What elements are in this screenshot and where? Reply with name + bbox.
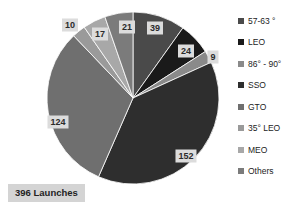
pie-slice-value-label: 24: [178, 45, 194, 58]
chart-screenshot: 39249152124101721 396 Launches 57-63 °LE…: [0, 0, 305, 214]
chart-legend: 57-63 °LEO86° - 90°SSOGTO35° LEOMEOOther…: [238, 10, 305, 182]
legend-item[interactable]: Others: [238, 161, 305, 183]
legend-item[interactable]: 57-63 °: [238, 10, 305, 32]
legend-item-label: GTO: [248, 102, 266, 112]
pie-chart: [0, 0, 232, 200]
pie-slice-value-label: 124: [47, 116, 68, 129]
legend-item[interactable]: GTO: [238, 96, 305, 118]
legend-item-label: SSO: [248, 80, 266, 90]
legend-swatch-icon: [238, 168, 244, 174]
legend-item-label: MEO: [248, 145, 267, 155]
legend-swatch-icon: [238, 147, 244, 153]
pie-slice-value-label: 17: [92, 28, 108, 41]
legend-item[interactable]: SSO: [238, 75, 305, 97]
legend-item-label: LEO: [248, 37, 265, 47]
legend-item-label: 86° - 90°: [248, 59, 281, 69]
legend-swatch-icon: [238, 82, 244, 88]
pie-slice-value-label: 152: [175, 150, 196, 163]
total-launches-callout: 396 Launches: [8, 184, 85, 202]
legend-item-label: 35° LEO: [248, 123, 280, 133]
legend-item[interactable]: 86° - 90°: [238, 53, 305, 75]
pie-slice-value-label: 9: [207, 51, 218, 64]
legend-item[interactable]: 35° LEO: [238, 118, 305, 140]
legend-item[interactable]: LEO: [238, 32, 305, 54]
pie-slice-value-label: 10: [62, 19, 78, 32]
legend-item-label: Others: [248, 166, 274, 176]
legend-swatch-icon: [238, 125, 244, 131]
legend-item-label: 57-63 °: [248, 16, 276, 26]
pie-slice-value-label: 21: [119, 21, 135, 34]
legend-swatch-icon: [238, 18, 244, 24]
pie-slice-value-label: 39: [147, 22, 163, 35]
legend-swatch-icon: [238, 61, 244, 67]
legend-swatch-icon: [238, 39, 244, 45]
pie-chart-svg: [0, 0, 232, 200]
legend-swatch-icon: [238, 104, 244, 110]
legend-item[interactable]: MEO: [238, 139, 305, 161]
